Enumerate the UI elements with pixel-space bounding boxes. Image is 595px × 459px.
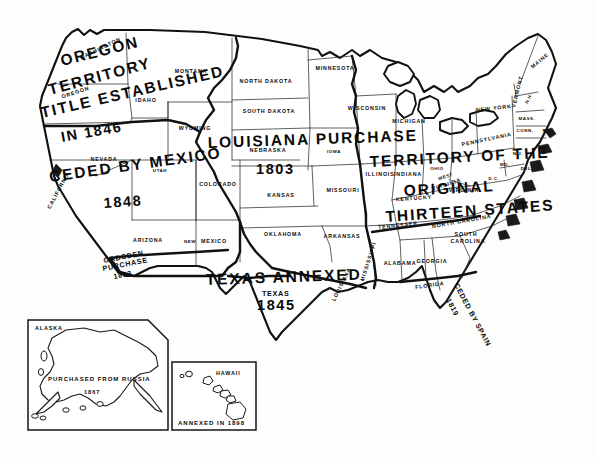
state-label: INDIANA [394,171,422,177]
state-label: OHIO [430,166,444,171]
state-label: NEBRASKA [250,147,287,153]
state-label: MICHIGAN [392,118,426,124]
state-label: D.C. [488,176,499,181]
state-label: WISCONSIN [348,105,386,111]
state-label: NEW [184,239,196,244]
state-label: KANSAS [267,192,294,198]
inset-year-alaska: 1867 [84,389,100,395]
state-label: CAROLINA [451,238,486,244]
state-label: MASS. [519,116,536,121]
state-label: ARIZONA [133,237,163,243]
inset-title-hawaii: HAWAII [216,370,241,376]
inset-caption-alaska: PURCHASED FROM RUSSIA [48,376,151,382]
state-label: IDAHO [135,97,156,103]
inset-caption-hawaii: ANNEXED IN 1898 [178,420,245,426]
us-territorial-growth-map: OREGON TERRITORY TITLE ESTABLISHED IN 18… [0,0,595,459]
acq-label-mexican-cession-year: 1848 [103,192,143,211]
state-label: SOUTH [455,231,478,237]
state-label: DEL. [521,166,533,171]
state-label: MONTANA [175,68,208,74]
state-label: N.J. [513,151,523,156]
acq-label-louisiana-year: 1803 [256,161,295,177]
state-label: ALABAMA [384,260,417,266]
state-label: CONN. [516,128,533,133]
state-label: NORTH DAKOTA [240,78,293,84]
state-label: ARKANSAS [324,233,361,239]
state-label: COLORADO [199,181,237,187]
state-label: SOUTH DAKOTA [243,108,295,114]
state-label: MD. [500,162,510,167]
state-label: IOWA [327,149,341,154]
state-label: NEVADA [90,156,117,162]
state-label: GEORGIA [417,258,448,264]
state-label: VIRGINIA [449,187,479,193]
state-label: OKLAHOMA [264,231,302,237]
inset-title-alaska: ALASKA [35,325,63,331]
map-canvas: OREGON TERRITORY TITLE ESTABLISHED IN 18… [0,0,595,459]
hawaii-inset: HAWAII ANNEXED IN 1898 [172,362,256,430]
acq-label-florida-line1: CEDED BY SPAIN [452,282,493,348]
state-label: MEXICO [201,238,227,244]
state-label: ILLINOIS [365,171,394,177]
state-label: UTAH [153,168,167,173]
acq-label-florida-year: 1819 [444,297,461,318]
state-label: R.I. [542,128,551,133]
state-label: MISSOURI [327,187,360,193]
state-label: MINNESOTA [315,65,354,71]
acq-label-texas-year: 1845 [257,297,296,313]
alaska-inset: ALASKA PURCHASED FROM RUSSIA 1867 [28,320,168,430]
state-label: WYOMING [179,125,211,131]
